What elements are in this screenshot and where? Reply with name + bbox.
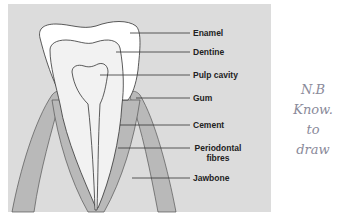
label-cement: Cement [193, 120, 224, 130]
label-jawbone: Jawbone [193, 173, 229, 183]
note-line-2: Know. [278, 102, 348, 117]
label-enamel: Enamel [193, 28, 223, 38]
label-gum: Gum [193, 93, 212, 103]
label-pulp-cavity: Pulp cavity [193, 70, 238, 80]
label-periodontal-fibres: Periodontal fibres [193, 143, 243, 163]
note-line-3: to [278, 122, 348, 137]
label-dentine: Dentine [193, 47, 224, 57]
note-line-4: draw [278, 142, 348, 157]
note-line-1: N.B [278, 82, 348, 97]
